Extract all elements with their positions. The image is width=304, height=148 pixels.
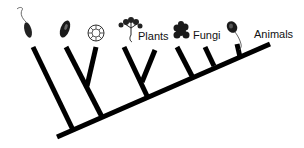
branch-fungi [205, 47, 214, 66]
fungus-icon [174, 21, 190, 39]
paramecium-icon [58, 19, 73, 39]
branch-fungus-stem [177, 47, 193, 78]
branch-plant [142, 50, 155, 82]
foraminifera-icon [88, 25, 104, 41]
branch-animals [237, 44, 240, 57]
label-fungi: Fungi [193, 30, 221, 41]
branch-flagellate [33, 47, 73, 130]
phylogenetic-tree [0, 0, 304, 148]
label-plants: Plants [138, 31, 169, 42]
euglena-icon [17, 7, 33, 38]
branch-radiolarian [87, 47, 96, 86]
branch-ciliate [66, 47, 102, 117]
label-animals: Animals [254, 29, 293, 40]
